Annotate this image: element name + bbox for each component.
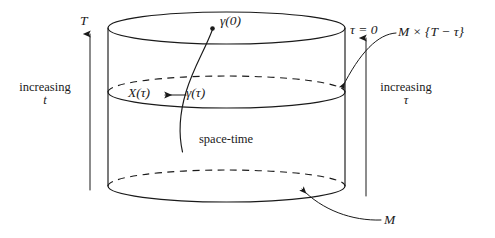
slice-label: M × {T − τ} xyxy=(398,25,464,39)
manifold-label: M xyxy=(384,213,395,227)
gamma-zero-point xyxy=(210,26,215,31)
manifold-leader-line xyxy=(302,189,381,220)
increasing-t-line2: t xyxy=(14,94,76,107)
x-tau-label: X(τ) xyxy=(128,86,150,100)
gamma-zero-label: γ(0) xyxy=(220,14,241,28)
space-time-cylinder-figure: T increasing t γ(0) X(τ) γ(τ) space-time… xyxy=(0,0,495,238)
bottom-ellipse-back xyxy=(108,170,345,186)
increasing-tau-line2: τ xyxy=(375,94,437,107)
space-time-label: space-time xyxy=(199,133,253,146)
gamma-tau-label: γ(τ) xyxy=(186,86,205,100)
tau-zero-label: τ = 0 xyxy=(350,23,377,37)
t-axis-label: T xyxy=(80,14,88,28)
bottom-ellipse-front xyxy=(108,186,345,202)
increasing-tau-label: increasing τ xyxy=(375,81,437,107)
increasing-t-label: increasing t xyxy=(14,81,76,107)
cylinder-body xyxy=(108,12,345,202)
